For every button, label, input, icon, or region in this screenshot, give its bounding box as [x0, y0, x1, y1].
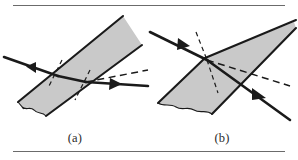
figure-bottom-rule — [13, 151, 285, 152]
slab-medium-fill — [18, 16, 142, 116]
figure-top-rule — [13, 5, 285, 6]
wedge-medium-fill — [158, 22, 296, 114]
panel-b-wedge-diagram — [148, 10, 296, 130]
caption-panel-a: (a) — [2, 129, 148, 147]
panel-a-slab-diagram — [2, 10, 148, 130]
caption-panel-b: (b) — [148, 129, 296, 147]
panel-a-svg — [2, 10, 148, 130]
figure-container: (a) (b) — [0, 0, 298, 160]
emergent-ray-arrowhead — [109, 78, 122, 90]
panel-b-svg — [148, 10, 296, 130]
emergent-ray-arrowhead — [252, 88, 266, 100]
incident-ray-arrowhead — [26, 62, 36, 73]
